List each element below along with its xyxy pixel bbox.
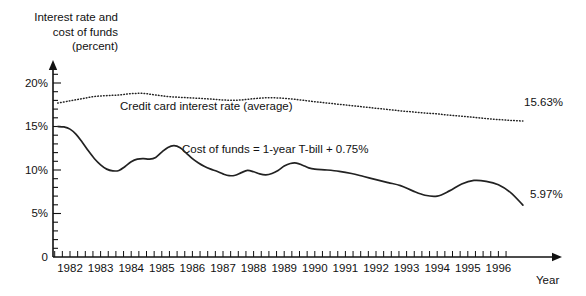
cost-of-funds-line (58, 127, 523, 206)
x-axis-tick-label-1996: 1996 (475, 262, 521, 274)
chart-plot-area (0, 0, 586, 296)
credit-card-rate-line (58, 93, 523, 121)
chart-container: Interest rate and cost of funds (percent… (0, 0, 586, 296)
x-axis-arrowhead (552, 253, 562, 261)
y-axis-arrowhead (49, 60, 57, 70)
